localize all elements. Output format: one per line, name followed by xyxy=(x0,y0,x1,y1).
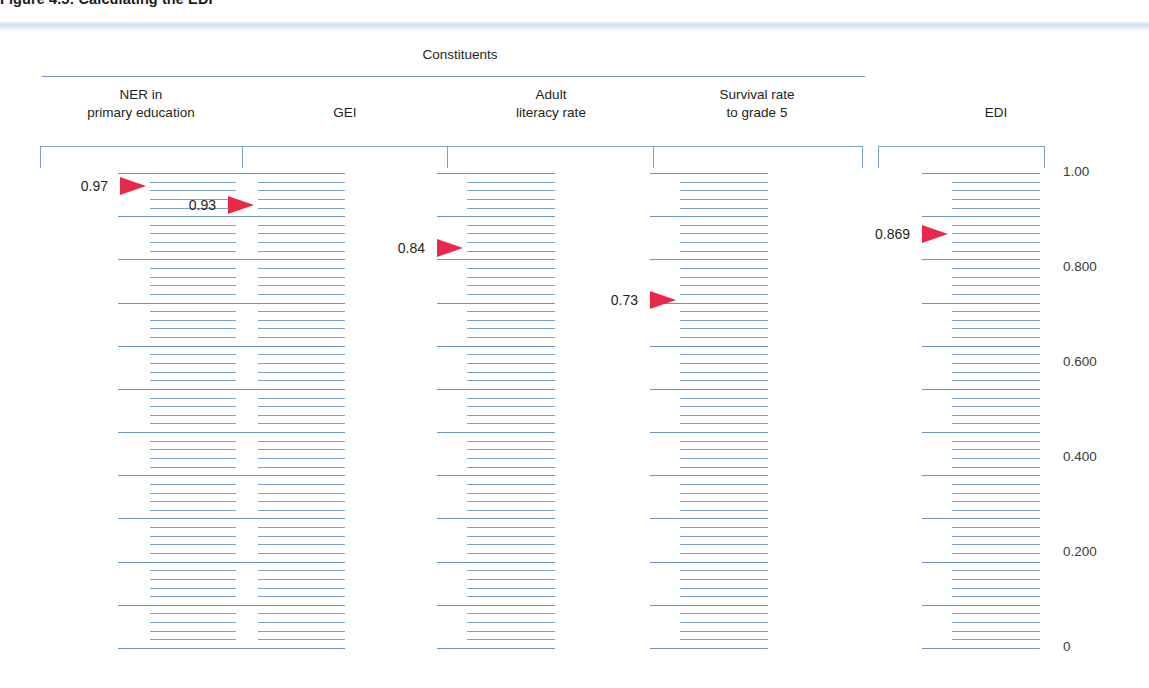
scale-rung-minor xyxy=(258,242,345,243)
scale-rung-minor xyxy=(680,190,768,191)
scale-rung-minor xyxy=(952,631,1040,632)
annotation-value-ner: 0.97 xyxy=(81,178,108,194)
scale-rung-minor xyxy=(258,493,345,494)
scale-rung-minor xyxy=(680,208,768,209)
scale-rung-minor xyxy=(150,372,236,373)
scale-rung-minor xyxy=(952,354,1040,355)
scale-rung-minor xyxy=(258,294,345,295)
scale-rung-minor xyxy=(680,328,768,329)
scale-rung-minor xyxy=(258,501,345,502)
scale-rung-major xyxy=(650,648,768,649)
constituents-bracket xyxy=(40,146,863,168)
annotation-arrow-icon xyxy=(228,196,254,214)
column-header-survival-grade5: Survival rateto grade 5 xyxy=(657,86,857,122)
scale-rung-minor xyxy=(680,285,768,286)
bracket-top-rule xyxy=(40,146,863,147)
scale-rung-minor xyxy=(680,294,768,295)
scale-rung-minor xyxy=(952,613,1040,614)
scale-rung-major xyxy=(922,605,1040,606)
scale-rung-minor xyxy=(150,484,236,485)
scale-rung-minor xyxy=(952,242,1040,243)
scale-rung-minor xyxy=(680,311,768,312)
scale-rung-minor xyxy=(150,639,236,640)
scale-rung-minor xyxy=(680,320,768,321)
scale-rung-minor xyxy=(680,493,768,494)
scale-rung-minor xyxy=(150,233,236,234)
scale-rung-minor xyxy=(467,328,555,329)
scale-rung-minor xyxy=(258,311,345,312)
scale-rung-minor xyxy=(150,406,236,407)
constituents-label: Constituents xyxy=(380,47,540,62)
scale-rung-minor xyxy=(952,363,1040,364)
bracket-tick xyxy=(653,146,654,168)
scale-rung-minor xyxy=(952,225,1040,226)
scale-rung-major xyxy=(922,303,1040,304)
scale-rung-minor xyxy=(952,467,1040,468)
scale-rung-minor xyxy=(467,415,555,416)
scale-rung-minor xyxy=(680,596,768,597)
scale-rung-minor xyxy=(952,182,1040,183)
scale-rung-minor xyxy=(150,225,236,226)
scale-rung-minor xyxy=(150,467,236,468)
scale-rung-major xyxy=(228,475,345,476)
scale-rung-minor xyxy=(680,398,768,399)
scale-rung-minor xyxy=(952,458,1040,459)
scale-rung-minor xyxy=(467,225,555,226)
scale-rung-minor xyxy=(680,639,768,640)
scale-rung-major xyxy=(650,562,768,563)
scale-rung-minor xyxy=(467,596,555,597)
scale-rung-minor xyxy=(258,354,345,355)
column-header-line1-edi: EDI xyxy=(896,104,1096,122)
scale-rung-major xyxy=(650,173,768,174)
scale-rung-minor xyxy=(150,544,236,545)
scale-rung-minor xyxy=(467,631,555,632)
scale-rung-major xyxy=(228,389,345,390)
scale-rung-minor xyxy=(258,320,345,321)
scale-rung-minor xyxy=(258,484,345,485)
scale-rung-minor xyxy=(150,423,236,424)
scale-rung-minor xyxy=(952,199,1040,200)
scale-rung-minor xyxy=(258,536,345,537)
scale-rung-major xyxy=(228,173,345,174)
scale-rung-minor xyxy=(680,570,768,571)
scale-rung-minor xyxy=(150,380,236,381)
scale-rung-minor xyxy=(150,285,236,286)
scale-rung-minor xyxy=(680,268,768,269)
scale-rung-minor xyxy=(952,510,1040,511)
scale-rung-minor xyxy=(952,415,1040,416)
bracket-tick xyxy=(878,146,879,168)
scale-rung-major xyxy=(118,173,236,174)
scale-rung-major xyxy=(118,389,236,390)
scale-rung-minor xyxy=(258,467,345,468)
scale-rung-minor xyxy=(258,363,345,364)
scale-rung-major xyxy=(922,216,1040,217)
axis-tick-label: 0.400 xyxy=(1063,449,1097,464)
scale-rung-minor xyxy=(150,458,236,459)
column-header-adult-literacy: Adultliteracy rate xyxy=(451,86,651,122)
scale-rung-major xyxy=(650,389,768,390)
annotation-arrow-icon xyxy=(650,291,676,309)
scale-rung-minor xyxy=(150,510,236,511)
scale-rung-minor xyxy=(952,553,1040,554)
annotation-value-survival-grade5: 0.73 xyxy=(611,292,638,308)
scale-rung-minor xyxy=(258,190,345,191)
scale-rung-minor xyxy=(258,415,345,416)
scale-rung-major xyxy=(228,216,345,217)
scale-rung-minor xyxy=(150,596,236,597)
scale-rung-minor xyxy=(467,441,555,442)
scale-rung-minor xyxy=(150,190,236,191)
scale-rung-minor xyxy=(467,553,555,554)
scale-rung-minor xyxy=(680,251,768,252)
scale-rung-minor xyxy=(150,493,236,494)
scale-rung-minor xyxy=(258,398,345,399)
scale-rung-minor xyxy=(258,285,345,286)
figure-title: Figure 4.5: Calculating the EDI xyxy=(0,0,213,7)
scale-rung-minor xyxy=(150,182,236,183)
scale-rung-major xyxy=(437,475,555,476)
scale-rung-minor xyxy=(680,536,768,537)
scale-rung-minor xyxy=(467,527,555,528)
scale-rung-minor xyxy=(467,493,555,494)
scale-rung-minor xyxy=(467,233,555,234)
scale-rung-minor xyxy=(150,588,236,589)
scale-rung-minor xyxy=(952,570,1040,571)
